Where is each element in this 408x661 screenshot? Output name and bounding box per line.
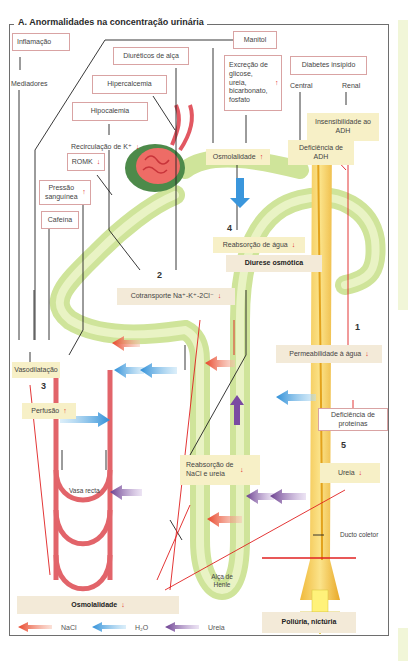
down-arrow-icon: ↓: [218, 292, 222, 301]
vasa-recta-label: Vasa recta: [69, 487, 100, 495]
deficiencia-adh-label: Deficiência de ADH: [296, 144, 346, 162]
manitol-label: Manitol: [244, 36, 267, 45]
down-arrow-icon: ↓: [365, 350, 369, 359]
poliuria-box: Poliúria, nictúria: [262, 612, 356, 633]
hipercalcemia-label: Hipercalcemia: [107, 80, 151, 89]
deficiencia-adh-box: Deficiência de ADH: [288, 140, 354, 165]
diurese-osmotica-label: Diurese osmótica: [245, 259, 303, 268]
excrecao-label: Excreção de glicose, ureia, bicarbonato,…: [229, 61, 271, 105]
up-arrow-icon: ↑: [63, 407, 67, 416]
down-arrow-icon: ↓: [136, 143, 140, 150]
hipocalemia-box: Hipocalemia: [72, 102, 148, 121]
up-arrow-icon: ↑: [260, 153, 264, 162]
diagram-stage: A. Anormalidades na concentração urinári…: [0, 0, 408, 661]
up-arrow-icon: ↑: [82, 188, 86, 197]
down-arrow-icon: ↓: [292, 241, 296, 250]
cafeina-label: Cafeína: [48, 216, 73, 225]
manitol-box: Manitol: [233, 31, 277, 49]
cotransporte-box: Cotransporte Na⁺-K⁺-2Cl⁻↓: [117, 288, 235, 305]
cafeina-box: Cafeína: [41, 211, 79, 229]
kidney-illustration: [0, 0, 408, 661]
excrecao-box: Excreção de glicose, ureia, bicarbonato,…: [224, 55, 282, 111]
legend-ureia: Ureia: [165, 622, 225, 632]
hipocalemia-label: Hipocalemia: [91, 107, 130, 116]
inflamacao-box: Inflamação: [12, 33, 70, 51]
step-number-4: 4: [227, 223, 232, 233]
central-label: Central: [290, 82, 313, 90]
permeabilidade-label: Permeabilidade à água: [289, 350, 361, 359]
vasodilatacao-box: Vasodilatação: [12, 362, 60, 378]
perfusao-label: Perfusão: [31, 407, 59, 416]
down-arrow-icon: ↓: [121, 601, 125, 610]
legend-nacl-label: NaCl: [61, 624, 77, 631]
osmolalidade-down-box: Osmolalidade↓: [17, 596, 179, 614]
alca-henle-label: Alça de Henle: [210, 573, 234, 589]
up-arrow-icon: ↑: [275, 79, 279, 88]
diabetes-box: Diabetes insípido: [290, 56, 367, 75]
cotransporte-label: Cotransporte Na⁺-K⁺-2Cl⁻: [131, 292, 214, 301]
reabsorcao-agua-box: Reabsorção de água↓: [213, 237, 305, 253]
down-arrow-icon: ↓: [97, 158, 101, 167]
osmolalidade-up-label: Osmolalidade: [213, 153, 256, 162]
hipercalcemia-box: Hipercalcemia: [92, 75, 167, 94]
legend-h2o-label: H₂O: [135, 624, 148, 631]
step-number-2: 2: [157, 270, 162, 280]
ureia-arrow-icon: [165, 622, 199, 632]
down-arrow-icon: ↓: [359, 469, 363, 478]
pressao-label: Pressão sanguínea: [44, 184, 78, 202]
inflamacao-label: Inflamação: [17, 38, 51, 47]
diureticos-label: Diuréticos de alça: [123, 52, 179, 61]
legend-h2o: H₂O: [92, 622, 148, 632]
osmolalidade-down-label: Osmolalidade: [71, 601, 117, 610]
diureticos-box: Diuréticos de alça: [113, 47, 189, 65]
down-arrow-icon: ↓: [240, 466, 244, 475]
reabsorcao-nacl-label: Reabsorção de NaCl e ureia: [186, 461, 236, 479]
pressao-box: Pressão sanguínea↑: [39, 180, 91, 205]
perfusao-box: Perfusão↑: [22, 403, 76, 419]
step-number-1: 1: [355, 322, 360, 332]
romk-label: ROMK: [72, 158, 93, 167]
insensibilidade-box: Insensibilidade ao ADH: [307, 113, 379, 141]
deficiencia-proteinas-box: Deficiência de proteínas: [318, 408, 388, 431]
ducto-coletor-label: Ducto coletor: [340, 531, 378, 539]
step-number-3: 3: [41, 381, 46, 391]
vasodilatacao-label: Vasodilatação: [14, 366, 57, 375]
h2o-arrow-icon: [92, 622, 126, 632]
romk-box: ROMK↓: [67, 153, 105, 171]
ureia-label: Ureia: [338, 469, 355, 478]
permeabilidade-box: Permeabilidade à água↓: [276, 345, 382, 363]
mediadores-label: Mediadores: [11, 80, 48, 88]
diurese-osmotica-box: Diurese osmótica: [226, 255, 322, 272]
reabsorcao-agua-label: Reabsorção de água: [223, 241, 288, 250]
poliuria-label: Poliúria, nictúria: [282, 618, 337, 627]
step-number-5: 5: [341, 440, 346, 450]
reabsorcao-nacl-box: Reabsorção de NaCl e ureia↓: [180, 455, 260, 485]
legend-ureia-label: Ureia: [208, 624, 225, 631]
insensibilidade-label: Insensibilidade ao ADH: [313, 118, 373, 136]
osmolalidade-up-box: Osmolalidade↑: [206, 149, 270, 165]
ureia-box: Ureia↓: [320, 463, 380, 483]
deficiencia-proteinas-label: Deficiência de proteínas: [326, 411, 381, 429]
renal-label: Renal: [342, 82, 360, 90]
diabetes-label: Diabetes insípido: [302, 61, 356, 70]
recirculacao-label: Recirculação de K⁺↓: [71, 143, 139, 151]
nacl-arrow-icon: [18, 622, 52, 632]
legend-nacl: NaCl: [18, 622, 77, 632]
